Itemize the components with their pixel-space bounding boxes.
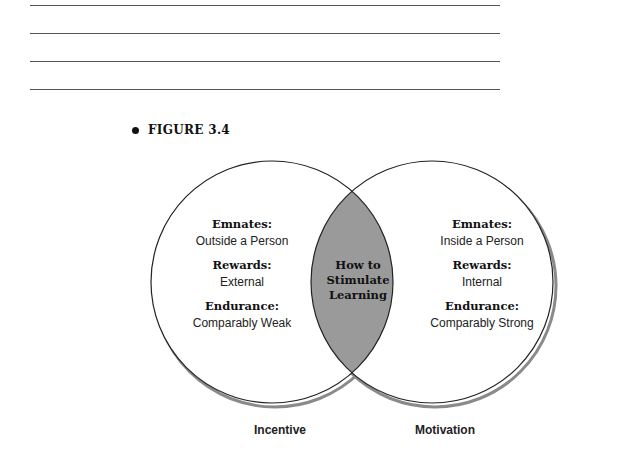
intersection-line-3: Learning <box>318 288 398 303</box>
left-circle-caption: Incentive <box>254 423 306 437</box>
right-heading-rewards: Rewards: <box>402 258 562 272</box>
right-heading-endurance: Endurance: <box>402 299 562 313</box>
left-heading-rewards: Rewards: <box>162 258 322 272</box>
left-value-rewards: External <box>162 275 322 289</box>
right-value-emnates: Inside a Person <box>402 234 562 248</box>
left-value-emnates: Outside a Person <box>162 234 322 248</box>
left-circle-content: Emnates: Outside a Person Rewards: Exter… <box>162 217 322 340</box>
left-value-endurance: Comparably Weak <box>162 316 322 330</box>
left-heading-emnates: Emnates: <box>162 217 322 231</box>
right-circle-content: Emnates: Inside a Person Rewards: Intern… <box>402 217 562 340</box>
right-circle-caption: Motivation <box>415 423 475 437</box>
right-heading-emnates: Emnates: <box>402 217 562 231</box>
intersection-line-2: Stimulate <box>318 273 398 288</box>
right-value-rewards: Internal <box>402 275 562 289</box>
right-value-endurance: Comparably Strong <box>402 316 562 330</box>
intersection-line-1: How to <box>318 258 398 273</box>
left-heading-endurance: Endurance: <box>162 299 322 313</box>
intersection-label: How to Stimulate Learning <box>318 258 398 303</box>
